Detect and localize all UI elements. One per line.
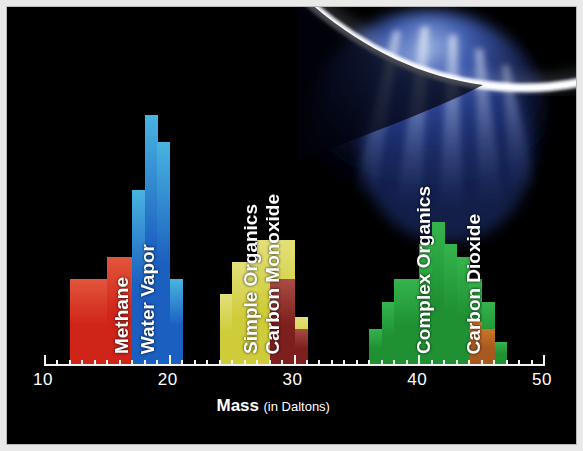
- x-axis-major-tick-20: [169, 355, 171, 366]
- x-axis-minor-tick-38: [393, 360, 395, 366]
- water-vapor-label: Water Vapor: [137, 244, 159, 354]
- bar-water-vapor-19: [157, 142, 170, 364]
- x-axis-minor-tick-33: [331, 360, 333, 366]
- x-axis-minor-tick-34: [343, 360, 345, 366]
- x-axis-minor-tick-14: [94, 360, 96, 366]
- x-axis-minor-tick-32: [318, 360, 320, 366]
- x-axis-minor-tick-29: [281, 360, 283, 366]
- chart-frame: 1020304050MethaneWater VaporSimple Organ…: [6, 6, 577, 445]
- x-axis-minor-tick-46: [493, 360, 495, 366]
- carbon-monoxide-label: Carbon Monoxide: [262, 194, 284, 354]
- x-axis-minor-tick-15: [106, 360, 108, 366]
- x-axis-tick-label-30: 30: [283, 370, 303, 390]
- x-axis-minor-tick-23: [206, 360, 208, 366]
- x-axis-minor-tick-37: [381, 360, 383, 366]
- x-axis-minor-tick-19: [156, 360, 158, 366]
- x-axis-minor-tick-41: [431, 360, 433, 366]
- complex-organics-label: Complex Organics: [413, 186, 435, 354]
- mass-spectrum-plot: 1020304050MethaneWater VaporSimple Organ…: [7, 7, 577, 445]
- x-axis-minor-tick-43: [456, 360, 458, 366]
- bar-complex-organics-38: [394, 279, 407, 364]
- x-axis-title-main: Mass: [217, 396, 260, 415]
- x-axis-minor-tick-11: [56, 360, 58, 366]
- bar-complex-organics-36: [369, 329, 382, 364]
- x-axis-minor-tick-22: [194, 360, 196, 366]
- bar-carbon-monoxide-30: [295, 329, 308, 364]
- x-axis-minor-tick-13: [81, 360, 83, 366]
- x-axis-tick-label-40: 40: [407, 370, 427, 390]
- bar-water-vapor-20: [170, 279, 183, 364]
- x-axis-title: Mass (in Daltons): [217, 396, 330, 416]
- figure-root: 1020304050MethaneWater VaporSimple Organ…: [0, 0, 583, 451]
- x-axis-title-sub: (in Daltons): [263, 399, 329, 414]
- x-axis-major-tick-10: [44, 355, 46, 366]
- x-axis-minor-tick-44: [468, 360, 470, 366]
- x-axis-minor-tick-39: [406, 360, 408, 366]
- x-axis-tick-label-10: 10: [33, 370, 53, 390]
- x-axis-minor-tick-16: [119, 360, 121, 366]
- bar-complex-organics-42: [444, 244, 457, 364]
- x-axis-minor-tick-24: [219, 360, 221, 366]
- x-axis-minor-tick-17: [131, 360, 133, 366]
- x-axis-minor-tick-26: [244, 360, 246, 366]
- x-axis-minor-tick-25: [231, 360, 233, 366]
- x-axis-minor-tick-47: [506, 360, 508, 366]
- x-axis-major-tick-30: [294, 355, 296, 366]
- x-axis-minor-tick-12: [69, 360, 71, 366]
- carbon-dioxide-label: Carbon Dioxide: [463, 214, 485, 354]
- x-axis-minor-tick-28: [269, 360, 271, 366]
- x-axis-minor-tick-48: [518, 360, 520, 366]
- x-axis-minor-tick-45: [481, 360, 483, 366]
- bar-complex-organics-37: [382, 302, 395, 364]
- bar-methane-12: [70, 279, 83, 364]
- x-axis-major-tick-40: [418, 355, 420, 366]
- x-axis-minor-tick-42: [443, 360, 445, 366]
- bar-simple-organics-24: [220, 294, 233, 364]
- x-axis-minor-tick-18: [144, 360, 146, 366]
- x-axis-tick-label-20: 20: [158, 370, 178, 390]
- x-axis-minor-tick-31: [306, 360, 308, 366]
- bar-methane-13: [82, 279, 95, 364]
- x-axis-minor-tick-35: [356, 360, 358, 366]
- x-axis-minor-tick-49: [531, 360, 533, 366]
- bar-methane-14: [95, 279, 108, 364]
- x-axis-major-tick-50: [543, 355, 545, 366]
- x-axis-minor-tick-27: [256, 360, 258, 366]
- x-axis-minor-tick-36: [368, 360, 370, 366]
- x-axis-tick-label-50: 50: [532, 370, 552, 390]
- methane-label: Methane: [111, 277, 133, 354]
- x-axis-minor-tick-21: [181, 360, 183, 366]
- simple-organics-label: Simple Organics: [240, 204, 262, 354]
